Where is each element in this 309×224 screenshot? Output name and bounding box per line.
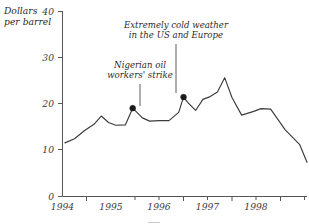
x-tick-label-1996: 1996 bbox=[147, 201, 171, 212]
y-tick-label-20: 20 bbox=[41, 98, 54, 109]
annotation-nigeria: Nigerian oil workers' strike bbox=[107, 60, 173, 106]
y-tick-group: 40 30 20 10 0 bbox=[41, 6, 62, 202]
annotation-cold-weather: Extremely cold weather in the US and Eur… bbox=[123, 20, 229, 93]
y-tick-label-30: 30 bbox=[42, 52, 54, 63]
y-tick-label-0: 0 bbox=[48, 191, 54, 202]
x-tick-group: 1994 1995 1996 1997 1998 bbox=[51, 197, 305, 213]
nigeria-annotation-line1: Nigerian oil bbox=[113, 60, 166, 70]
x-tick-label-1998: 1998 bbox=[244, 201, 268, 212]
y-tick-label-10: 10 bbox=[42, 144, 54, 155]
y-tick-label-40: 40 bbox=[41, 6, 54, 17]
cold-weather-annotation-line1: Extremely cold weather bbox=[123, 20, 229, 30]
price-series-line bbox=[65, 78, 307, 163]
x-tick-label-1995: 1995 bbox=[99, 201, 123, 212]
y-axis-title-line1: Dollars bbox=[3, 5, 38, 16]
chart-canvas: 40 30 20 10 0 1994 1995 1996 1997 1998 D… bbox=[0, 0, 309, 224]
oil-price-chart: 40 30 20 10 0 1994 1995 1996 1997 1998 D… bbox=[0, 0, 309, 224]
x-tick-label-1997: 1997 bbox=[196, 201, 220, 212]
y-axis-title-line2: per barrel bbox=[4, 16, 51, 27]
data-point-marker-1 bbox=[181, 94, 187, 100]
data-point-marker-0 bbox=[130, 105, 136, 111]
nigeria-annotation-line2: workers' strike bbox=[107, 70, 173, 80]
cold-weather-annotation-line2: in the US and Europe bbox=[129, 30, 223, 40]
x-tick-label-1994: 1994 bbox=[51, 201, 75, 212]
marker-group bbox=[130, 94, 187, 111]
